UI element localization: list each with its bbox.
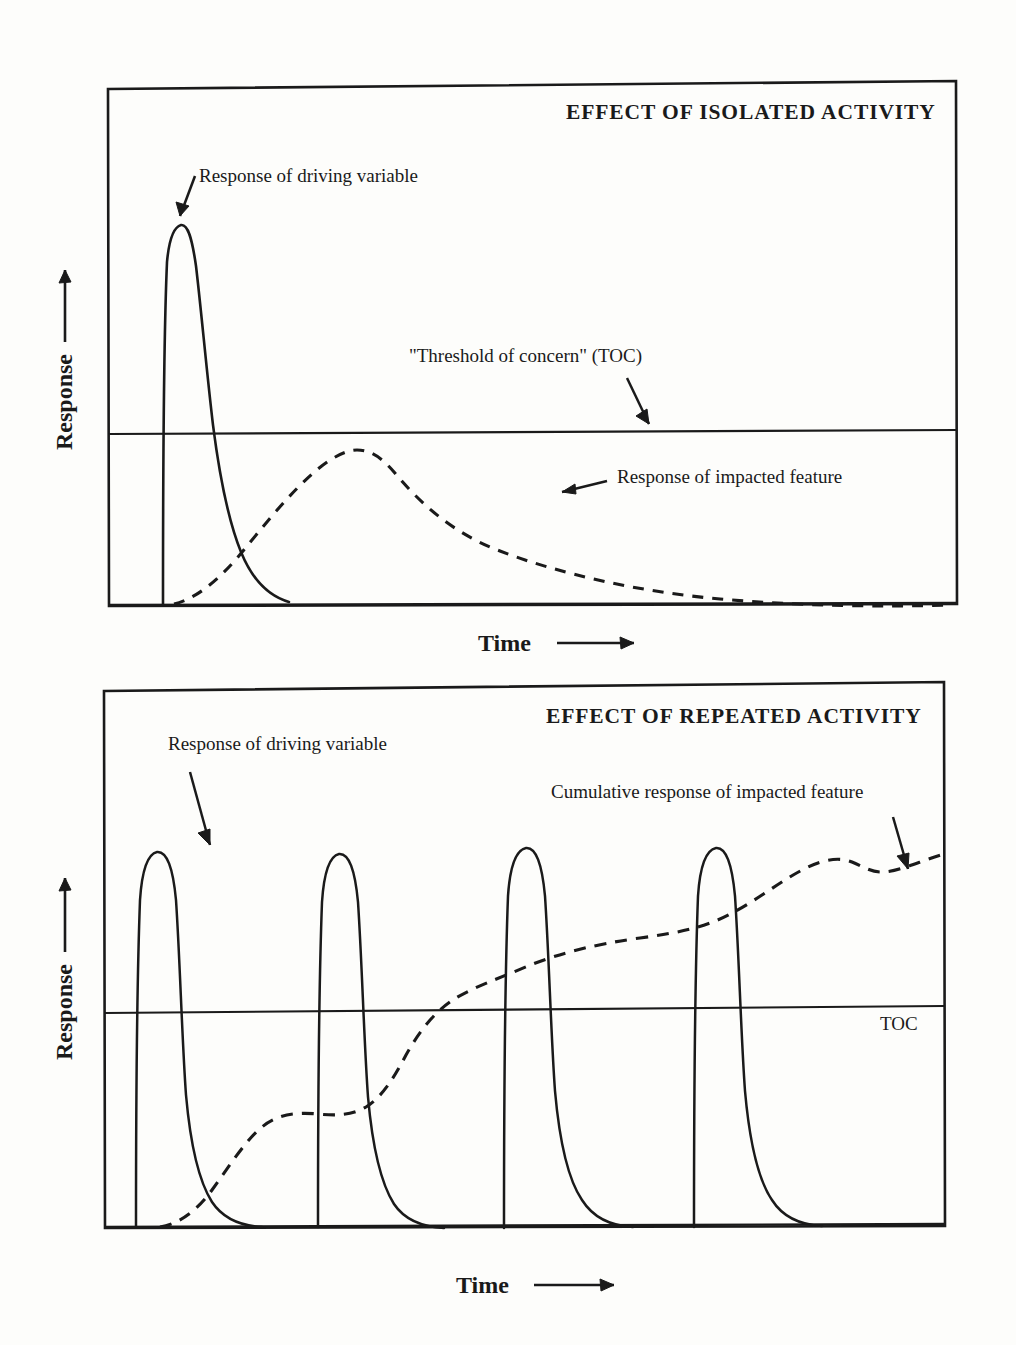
chart1-arrow-threshold: [627, 378, 649, 424]
chart2-annotation-cumulative-response: Cumulative response of impacted feature: [551, 781, 863, 802]
chart1-annotation-impacted-feature: Response of impacted feature: [617, 466, 842, 487]
chart2-toc-label: TOC: [880, 1013, 918, 1034]
chart2-toc-line: [105, 1006, 944, 1013]
chart-isolated-activity: EFFECT OF ISOLATED ACTIVITY Response of …: [51, 81, 957, 656]
chart1-x-axis-label: Time: [478, 630, 531, 656]
chart2-y-axis: Response: [51, 878, 77, 1060]
chart-repeated-activity: EFFECT OF REPEATED ACTIVITY Response of …: [51, 682, 945, 1298]
chart2-x-axis: Time: [456, 1272, 614, 1298]
figure-canvas: EFFECT OF ISOLATED ACTIVITY Response of …: [0, 0, 1016, 1345]
chart2-driving-variable-pulse-4: [694, 848, 822, 1227]
chart2-driving-variable-pulse-3: [504, 848, 633, 1228]
chart2-y-axis-label: Response: [51, 964, 77, 1060]
chart1-title: EFFECT OF ISOLATED ACTIVITY: [566, 100, 936, 124]
chart2-y-axis-arrow-icon: [59, 878, 71, 952]
chart1-arrow-impacted-feature: [562, 481, 607, 494]
chart2-driving-variable-pulse-2: [318, 854, 444, 1228]
chart1-y-axis-arrow-icon: [59, 270, 71, 342]
chart2-frame: [104, 682, 945, 1228]
chart1-x-axis-arrow-icon: [557, 637, 634, 649]
chart1-frame: [108, 81, 957, 606]
chart2-arrow-driving-variable: [190, 772, 210, 845]
chart1-y-axis-label: Response: [51, 354, 77, 450]
chart1-annotation-driving-variable: Response of driving variable: [199, 165, 418, 186]
chart1-y-axis: Response: [51, 270, 77, 450]
chart2-driving-variable-pulse-1: [136, 852, 262, 1227]
chart2-x-axis-arrow-icon: [534, 1279, 614, 1291]
chart2-arrow-cumulative-response: [893, 817, 909, 869]
chart1-x-axis: Time: [478, 630, 634, 656]
chart1-toc-line: [109, 430, 956, 434]
chart1-driving-variable-curve: [163, 225, 289, 604]
chart1-annotation-threshold: "Threshold of concern" (TOC): [409, 345, 642, 367]
chart2-annotation-driving-variable: Response of driving variable: [168, 733, 387, 754]
chart2-x-axis-label: Time: [456, 1272, 509, 1298]
chart1-arrow-driving-variable: [176, 176, 195, 216]
figure-page: EFFECT OF ISOLATED ACTIVITY "Threshold o…: [0, 0, 1016, 1345]
chart2-title: EFFECT OF REPEATED ACTIVITY: [546, 704, 922, 728]
